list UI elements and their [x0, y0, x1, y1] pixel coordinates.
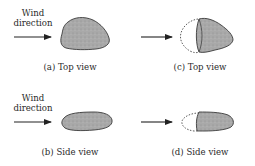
caption-c: (c) Top view [160, 63, 240, 72]
caption-b: (b) Side view [30, 148, 110, 157]
stone-top-view-original [61, 18, 110, 50]
wind-label-b: Wind direction [11, 94, 55, 113]
panel-c-graphics [141, 18, 233, 52]
stone-side-view-original [62, 112, 112, 131]
stone-side-view-eroded [196, 112, 233, 131]
ventifact-diagram: Wind direction (a) Top view (c) Top view… [0, 0, 255, 166]
wind-label-a: Wind direction [11, 9, 55, 28]
panel-d-graphics [141, 112, 233, 131]
caption-d: (d) Side view [160, 148, 240, 157]
wind-label-a-line2: direction [11, 19, 55, 29]
caption-a: (a) Top view [30, 63, 110, 72]
panel-b-graphics [14, 112, 112, 131]
wind-label-b-line2: direction [11, 104, 55, 114]
